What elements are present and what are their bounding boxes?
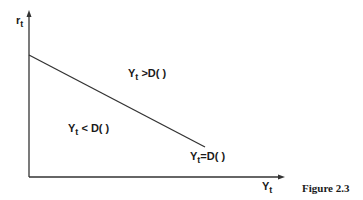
line-label-relation: =D( ) bbox=[200, 150, 225, 162]
y-axis-arrow-icon bbox=[27, 10, 32, 17]
region-above-label: Yt >D( ) bbox=[128, 67, 166, 82]
equilibrium-line bbox=[29, 55, 205, 147]
region-above-relation: >D( ) bbox=[138, 67, 166, 79]
y-axis-label-sub: t bbox=[20, 19, 23, 29]
x-axis-label: Yt bbox=[262, 180, 272, 195]
y-axis-label: rt bbox=[16, 14, 23, 29]
region-below-relation: < D( ) bbox=[78, 122, 109, 134]
line-label: Yt=D( ) bbox=[190, 150, 225, 165]
figure-caption: Figure 2.3 bbox=[302, 182, 349, 194]
diagram-canvas bbox=[0, 0, 363, 200]
region-below-label: Yt < D( ) bbox=[68, 122, 109, 137]
x-axis-label-sub: t bbox=[269, 185, 272, 195]
x-axis-arrow-icon bbox=[278, 175, 285, 180]
